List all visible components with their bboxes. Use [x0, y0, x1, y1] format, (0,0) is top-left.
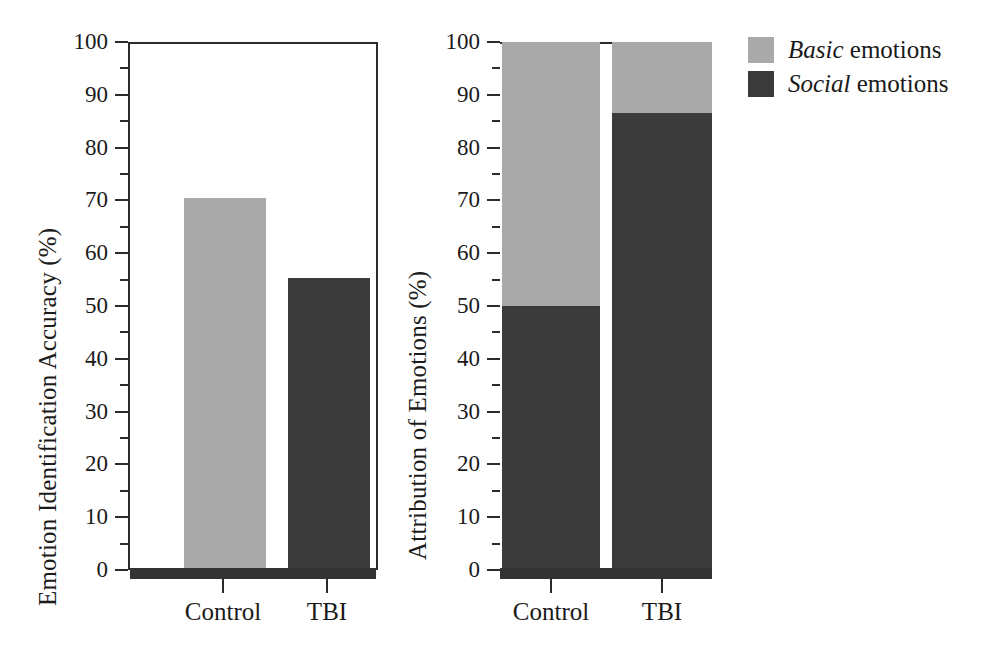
y-tick-minor: [492, 437, 500, 439]
legend-label-social: Social emotions: [788, 70, 948, 98]
y-tick-major: [487, 358, 500, 360]
y-tick-minor: [492, 331, 500, 333]
y-tick-label: 20: [418, 451, 480, 477]
stack-segment-social: [502, 306, 600, 570]
y-tick-major: [487, 569, 500, 571]
y-tick-label: 100: [418, 29, 480, 55]
right-baseline-band: [500, 568, 712, 579]
y-tick-major: [487, 463, 500, 465]
y-tick-major: [487, 199, 500, 201]
legend-swatch-basic-icon: [748, 37, 774, 63]
y-tick-major: [487, 41, 500, 43]
y-tick-minor: [492, 543, 500, 545]
y-tick-label: 60: [418, 240, 480, 266]
x-tick-label: TBI: [642, 598, 682, 626]
y-tick-label: 80: [418, 135, 480, 161]
y-tick-major: [487, 94, 500, 96]
right-plot-area: [500, 44, 712, 570]
stack-segment-basic: [612, 42, 712, 113]
stacked-bar-tbi: [612, 42, 712, 570]
y-tick-major: [487, 147, 500, 149]
y-tick-minor: [492, 120, 500, 122]
y-tick-minor: [492, 384, 500, 386]
stack-segment-social: [612, 113, 712, 570]
y-tick-major: [487, 411, 500, 413]
stacked-bar-control: [502, 42, 600, 570]
y-tick-label: 90: [418, 82, 480, 108]
y-tick-minor: [492, 226, 500, 228]
figure-root: Emotion Identification Accuracy (%) 0102…: [0, 0, 1003, 660]
y-tick-label: 70: [418, 187, 480, 213]
x-tick-label: Control: [513, 598, 589, 626]
x-tick: [661, 579, 663, 593]
x-tick: [550, 579, 552, 593]
y-tick-label: 50: [418, 293, 480, 319]
y-tick-major: [487, 516, 500, 518]
legend: Basic emotionsSocial emotions: [748, 36, 948, 104]
stack-segment-basic: [502, 42, 600, 306]
y-tick-minor: [492, 490, 500, 492]
y-tick-minor: [492, 279, 500, 281]
y-tick-minor: [492, 173, 500, 175]
legend-item-social: Social emotions: [748, 70, 948, 98]
right-plot-frame: [500, 42, 712, 570]
legend-swatch-social-icon: [748, 71, 774, 97]
y-tick-label: 0: [418, 557, 480, 583]
y-tick-label: 40: [418, 346, 480, 372]
y-tick-major: [487, 252, 500, 254]
y-tick-major: [487, 305, 500, 307]
legend-item-basic: Basic emotions: [748, 36, 948, 64]
y-tick-label: 30: [418, 399, 480, 425]
legend-label-basic: Basic emotions: [788, 36, 941, 64]
y-tick-label: 10: [418, 504, 480, 530]
y-tick-minor: [492, 67, 500, 69]
